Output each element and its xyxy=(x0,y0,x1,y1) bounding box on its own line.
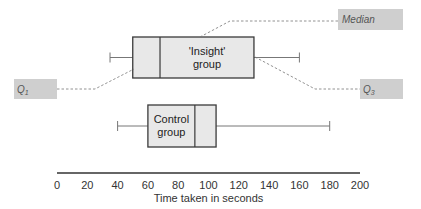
group-label: Control xyxy=(154,113,189,125)
x-tick-label: 200 xyxy=(351,179,369,191)
median-leader xyxy=(200,21,338,37)
box-plot-chart: 'Insight'groupControlgroupMedianQ1Q30204… xyxy=(0,0,421,209)
x-tick-label: 140 xyxy=(260,179,278,191)
x-tick-label: 80 xyxy=(172,179,184,191)
x-tick-label: 40 xyxy=(111,179,123,191)
group-label: group xyxy=(193,58,221,70)
x-tick-label: 160 xyxy=(290,179,308,191)
x-tick-label: 100 xyxy=(199,179,217,191)
x-tick-label: 120 xyxy=(230,179,248,191)
x-axis-title: Time taken in seconds xyxy=(154,192,264,204)
q1-leader xyxy=(57,69,134,89)
x-tick-label: 180 xyxy=(321,179,339,191)
x-tick-label: 60 xyxy=(142,179,154,191)
median-label: Median xyxy=(342,14,375,25)
x-tick-label: 0 xyxy=(54,179,60,191)
x-tick-label: 20 xyxy=(81,179,93,191)
q3-leader xyxy=(255,57,360,89)
group-label: group xyxy=(157,126,185,138)
group-label: 'Insight' xyxy=(189,45,226,57)
